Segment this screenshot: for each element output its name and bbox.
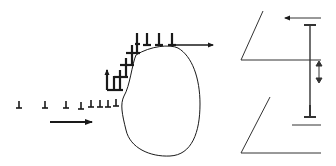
climb-staircase — [107, 33, 140, 90]
slip-plane-schematic — [241, 11, 321, 153]
dislocation-symbol — [88, 100, 94, 107]
diagram-canvas — [0, 0, 336, 166]
dislocation-symbol — [113, 99, 119, 106]
dislocation-symbol — [105, 100, 111, 107]
dislocation-symbol — [78, 102, 84, 109]
dislocation-symbol — [143, 33, 151, 45]
dislocation-symbol — [168, 33, 176, 45]
dislocation-symbol — [63, 101, 69, 108]
dislocation-diagram — [0, 0, 336, 166]
dislocation-symbol — [97, 100, 103, 107]
double-headed-arrow — [316, 61, 322, 83]
top-row-dislocations — [135, 33, 176, 45]
particle-obstacle — [122, 46, 200, 156]
dislocation-symbol — [42, 101, 48, 108]
dislocation-symbol — [16, 101, 22, 108]
glide-row-dislocations — [16, 99, 119, 109]
dislocation-symbol — [155, 33, 163, 45]
